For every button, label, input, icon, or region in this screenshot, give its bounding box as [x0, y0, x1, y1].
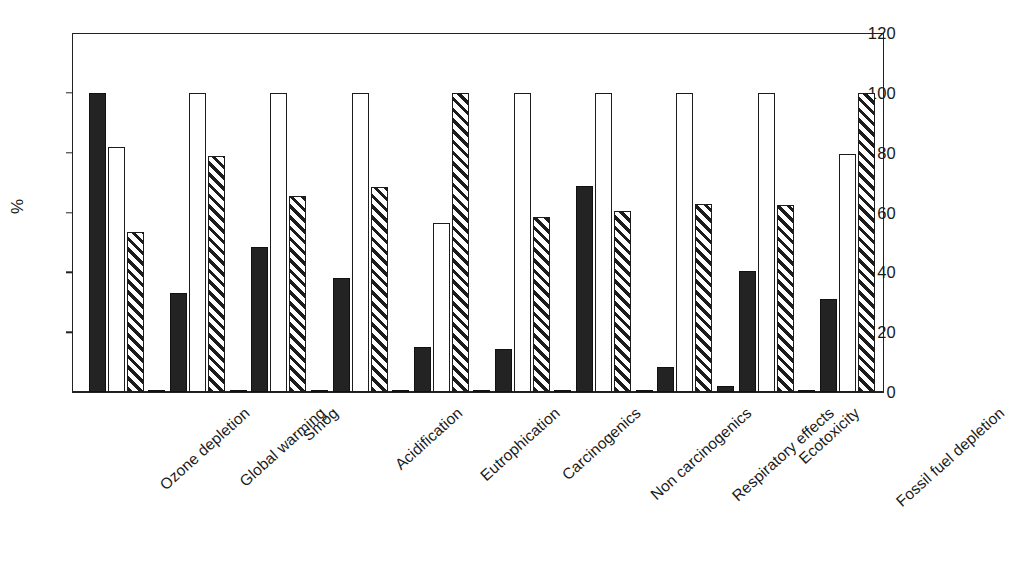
x-tick-label: Eutrophication [477, 404, 564, 485]
x-tick-label: Acidification [392, 404, 466, 474]
x-tick-label: Fossil fuel depletion [893, 404, 1008, 510]
x-tick-label: Carcinogenics [558, 404, 644, 484]
